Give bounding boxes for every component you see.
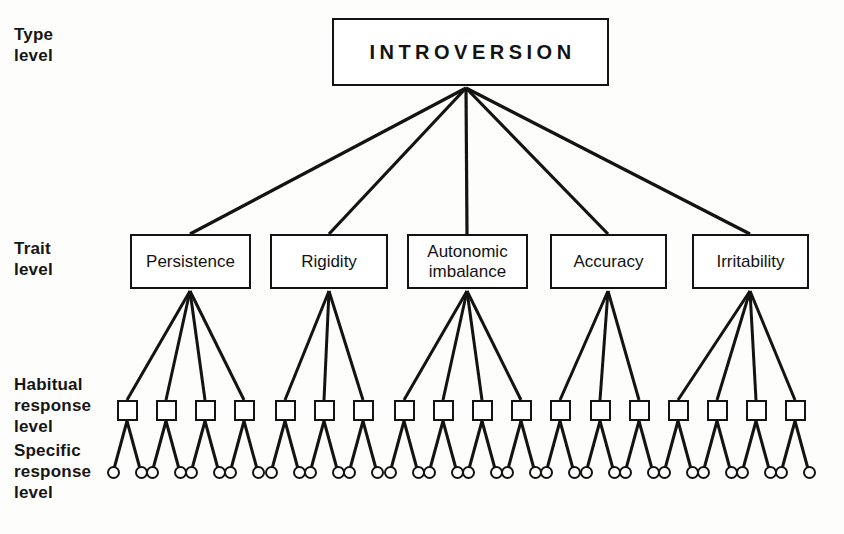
type-to-trait-edges [190, 88, 750, 234]
edge-trait2-to-habit-5 [285, 291, 329, 400]
node-habitual-response-2 [156, 400, 177, 421]
edge-habit8-to-specific-15 [390, 421, 404, 473]
figure-canvas: Type level Trait level Habitual response… [0, 0, 844, 534]
edge-habit1-to-specific-1 [113, 421, 127, 473]
edge-habit4-to-specific-8 [244, 421, 258, 473]
edge-habit4-to-specific-7 [230, 421, 244, 473]
node-specific-response-31 [697, 466, 710, 479]
edge-habit2-to-specific-3 [152, 421, 166, 473]
node-habitual-response-7 [353, 400, 374, 421]
edge-habit10-to-specific-20 [482, 421, 496, 473]
trait-to-habit-edges [127, 291, 795, 400]
edge-habit18-to-specific-35 [781, 421, 795, 473]
node-trait-rigidity: Rigidity [270, 234, 388, 289]
node-specific-response-1 [107, 466, 120, 479]
edge-habit14-to-specific-28 [639, 421, 653, 473]
node-habitual-response-9 [433, 400, 454, 421]
edge-habit9-to-specific-18 [443, 421, 457, 473]
edge-trait4-to-habit-14 [608, 291, 639, 400]
edge-type-to-trait-4 [466, 88, 608, 234]
node-specific-response-14 [371, 466, 384, 479]
level-label-type: Type level [14, 24, 53, 66]
edge-habit5-to-specific-10 [285, 421, 299, 473]
edge-type-to-trait-2 [329, 88, 466, 234]
edge-trait5-to-habit-18 [750, 291, 795, 400]
node-habitual-response-18 [785, 400, 806, 421]
node-type-introversion: INTROVERSION [332, 18, 609, 86]
edge-trait2-to-habit-7 [329, 291, 363, 400]
node-specific-response-3 [146, 466, 159, 479]
edge-habit9-to-specific-17 [429, 421, 443, 473]
edge-habit8-to-specific-16 [404, 421, 418, 473]
edge-habit17-to-specific-34 [756, 421, 770, 473]
node-specific-response-24 [568, 466, 581, 479]
node-specific-response-9 [265, 466, 278, 479]
node-specific-response-29 [658, 466, 671, 479]
node-specific-response-15 [384, 466, 397, 479]
edge-habit11-to-specific-22 [521, 421, 535, 473]
edge-habit12-to-specific-23 [546, 421, 560, 473]
node-habitual-response-14 [629, 400, 650, 421]
node-specific-response-33 [736, 466, 749, 479]
edge-habit18-to-specific-36 [795, 421, 809, 473]
node-specific-response-11 [304, 466, 317, 479]
edge-trait3-to-habit-9 [443, 291, 467, 400]
habit-to-specific-edges [113, 421, 809, 473]
node-specific-response-21 [501, 466, 514, 479]
edge-habit6-to-specific-11 [310, 421, 324, 473]
edge-type-to-trait-5 [466, 88, 750, 234]
node-specific-response-36 [803, 466, 816, 479]
edge-trait5-to-habit-16 [717, 291, 750, 400]
node-habitual-response-6 [314, 400, 335, 421]
node-habitual-response-3 [195, 400, 216, 421]
level-label-specific: Specific response level [14, 440, 91, 503]
node-trait-accuracy: Accuracy [550, 234, 667, 289]
edge-habit7-to-specific-14 [363, 421, 377, 473]
edge-habit11-to-specific-21 [507, 421, 521, 473]
node-habitual-response-4 [234, 400, 255, 421]
level-label-habitual: Habitual response level [14, 374, 91, 437]
edge-habit13-to-specific-25 [586, 421, 600, 473]
node-specific-response-7 [224, 466, 237, 479]
node-specific-response-13 [343, 466, 356, 479]
edge-trait2-to-habit-6 [324, 291, 329, 400]
edge-habit13-to-specific-26 [600, 421, 614, 473]
node-trait-irritability: Irritability [692, 234, 809, 289]
node-specific-response-25 [580, 466, 593, 479]
edge-type-to-trait-1 [190, 88, 466, 234]
node-habitual-response-8 [394, 400, 415, 421]
node-specific-response-27 [619, 466, 632, 479]
edge-habit5-to-specific-9 [271, 421, 285, 473]
node-specific-response-5 [185, 466, 198, 479]
edge-habit3-to-specific-6 [205, 421, 219, 473]
edge-habit12-to-specific-24 [560, 421, 574, 473]
edge-habit16-to-specific-31 [703, 421, 717, 473]
edge-habit15-to-specific-29 [664, 421, 678, 473]
node-habitual-response-11 [511, 400, 532, 421]
node-habitual-response-17 [746, 400, 767, 421]
node-specific-response-35 [775, 466, 788, 479]
node-habitual-response-1 [117, 400, 138, 421]
edge-habit2-to-specific-4 [166, 421, 180, 473]
node-habitual-response-5 [275, 400, 296, 421]
edge-trait1-to-habit-1 [127, 291, 190, 400]
node-trait-persistence: Persistence [130, 234, 251, 289]
edge-habit6-to-specific-12 [324, 421, 338, 473]
edge-habit16-to-specific-32 [717, 421, 731, 473]
edge-trait5-to-habit-15 [678, 291, 750, 400]
node-specific-response-23 [540, 466, 553, 479]
edge-trait5-to-habit-17 [750, 291, 756, 400]
node-trait-autonomic-imbalance: Autonomicimbalance [407, 234, 528, 289]
node-habitual-response-13 [590, 400, 611, 421]
edge-habit14-to-specific-27 [625, 421, 639, 473]
node-habitual-response-16 [707, 400, 728, 421]
edge-type-to-trait-3 [466, 88, 467, 234]
node-specific-response-8 [252, 466, 265, 479]
edge-habit3-to-specific-5 [191, 421, 205, 473]
edge-habit17-to-specific-33 [742, 421, 756, 473]
node-specific-response-17 [423, 466, 436, 479]
edge-habit10-to-specific-19 [468, 421, 482, 473]
edge-habit15-to-specific-30 [678, 421, 692, 473]
node-habitual-response-10 [472, 400, 493, 421]
node-habitual-response-15 [668, 400, 689, 421]
